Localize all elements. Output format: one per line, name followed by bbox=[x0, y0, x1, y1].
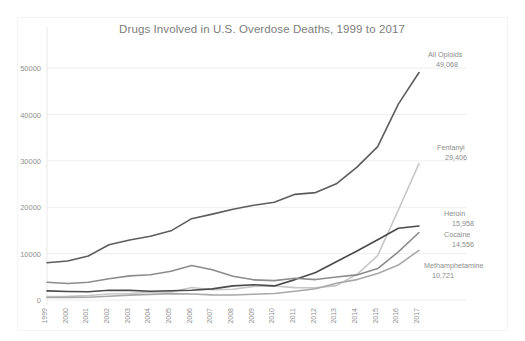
x-axis-tick-label: 2006 bbox=[186, 308, 193, 324]
series-line-cocaine bbox=[47, 233, 419, 284]
series-line-all-opioids bbox=[47, 73, 419, 263]
x-axis-tick-label: 2010 bbox=[268, 308, 275, 324]
series-end-label-name: Fentanyl bbox=[437, 143, 465, 152]
x-axis-tick-label: 2008 bbox=[227, 308, 234, 324]
y-axis-tick-label: 30000 bbox=[20, 157, 41, 166]
series-end-label-value: 14,556 bbox=[452, 240, 474, 249]
y-axis-tick-label: 10000 bbox=[20, 250, 41, 259]
x-axis-tick-label: 2011 bbox=[289, 308, 296, 323]
y-axis-tick-labels: 01000020000300004000050000 bbox=[20, 64, 41, 305]
y-axis-tick-label: 50000 bbox=[20, 64, 41, 73]
series-end-label-value: 49,068 bbox=[436, 60, 458, 69]
x-axis-tick-label: 2016 bbox=[392, 308, 399, 324]
y-axis-tick-label: 20000 bbox=[20, 203, 41, 212]
series-end-label-value: 29,406 bbox=[445, 153, 467, 162]
x-axis-tick-label: 2004 bbox=[144, 308, 151, 324]
series-end-label-name: Heroin bbox=[444, 209, 465, 218]
series-line-heroin bbox=[47, 226, 419, 292]
x-axis-tick-labels: 1999200020012002200320042005200620072008… bbox=[41, 308, 420, 324]
series-end-label-name: All Opioids bbox=[428, 50, 463, 59]
chart-title: Drugs Involved in U.S. Overdose Deaths, … bbox=[119, 23, 405, 35]
x-axis-tick-label: 2000 bbox=[62, 308, 69, 324]
y-axis-tick-label: 0 bbox=[37, 296, 41, 305]
series-end-label-name: Cocaine bbox=[444, 230, 470, 239]
x-axis-tick-label: 2002 bbox=[103, 308, 110, 324]
x-axis-tick-label: 2007 bbox=[206, 308, 213, 324]
x-axis-tick-label: 2005 bbox=[165, 308, 172, 324]
series-end-label-value: 10,721 bbox=[432, 271, 454, 280]
x-axis-tick-label: 2009 bbox=[248, 308, 255, 324]
x-axis-tick-label: 1999 bbox=[41, 308, 48, 324]
x-axis-tick-label: 2013 bbox=[330, 308, 337, 324]
series-end-labels: All Opioids49,068Fentanyl29,406Heroin15,… bbox=[424, 50, 484, 280]
x-axis-tick-label: 2015 bbox=[372, 308, 379, 324]
y-axis-tick-label: 40000 bbox=[20, 111, 41, 120]
series-lines bbox=[47, 73, 419, 298]
x-axis-tick-label: 2003 bbox=[124, 308, 131, 324]
series-end-label-value: 15,958 bbox=[452, 219, 474, 228]
gridlines bbox=[47, 27, 467, 305]
x-axis-tick-label: 2014 bbox=[351, 308, 358, 324]
x-axis-tick-label: 2017 bbox=[413, 308, 420, 324]
x-axis-tick-label: 2012 bbox=[310, 308, 317, 324]
chart-container: Drugs Involved in U.S. Overdose Deaths, … bbox=[0, 0, 525, 341]
series-end-label-name: Methamphetamine bbox=[424, 261, 484, 270]
line-chart-svg: Drugs Involved in U.S. Overdose Deaths, … bbox=[0, 0, 525, 341]
x-axis-tick-label: 2001 bbox=[82, 308, 89, 324]
